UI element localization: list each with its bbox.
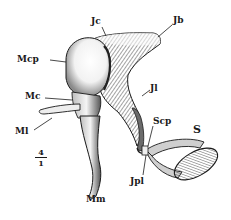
scale-numerator: 4 [38, 147, 44, 157]
scale-denominator: 1 [38, 158, 44, 168]
label-jc: Jc [91, 17, 101, 26]
label-jb: Jb [173, 16, 184, 25]
label-s: S [193, 124, 201, 135]
label-jl: Jl [150, 84, 158, 93]
label-jpl: Jpl [130, 177, 144, 186]
malleus [39, 38, 110, 198]
label-mcp: Mcp [17, 55, 39, 64]
label-mc: Mc [25, 92, 40, 101]
stapes [142, 139, 223, 186]
label-ml: Ml [15, 127, 28, 136]
label-scp: Scp [153, 117, 171, 126]
ossicles-figure: Jc Jb Mcp Mc Jl Ml Scp S Jpl Mm 4 1 [0, 0, 231, 220]
label-mm: Mm [86, 195, 106, 204]
magnification-scale: 4 1 [35, 148, 47, 167]
ossicles-drawing [0, 0, 231, 220]
